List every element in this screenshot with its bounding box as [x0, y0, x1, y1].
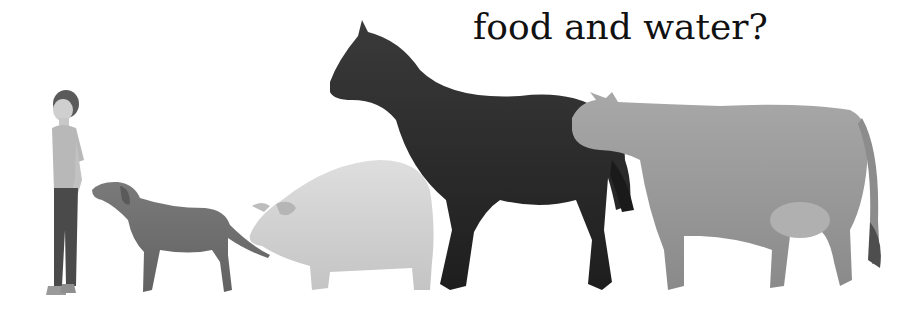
dog-figure	[92, 182, 270, 292]
pig-figure	[250, 160, 434, 290]
boy-figure	[46, 90, 84, 295]
animals-illustration	[0, 0, 898, 313]
